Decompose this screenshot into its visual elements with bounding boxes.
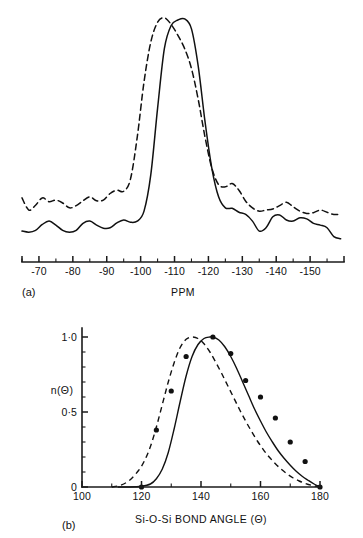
panel-b-y-axis-label: n(Θ) (51, 384, 74, 396)
data-point (243, 378, 248, 383)
panel-a-x-axis (22, 256, 344, 262)
nmr-solid-trace (22, 18, 341, 239)
panel-a-label: (a) (22, 286, 35, 298)
panel-b-y-tick-label: 0 (71, 481, 77, 493)
panel-a-x-tick-labels: -70-80-90-100-110-120-130-140-150 (31, 265, 321, 277)
panel-b-x-tick-label: 160 (252, 490, 270, 502)
panel-a-tick-label: -70 (31, 265, 47, 277)
figure-container: -70-80-90-100-110-120-130-140-150 PPM (a… (0, 0, 363, 538)
panel-a-tick-label: -90 (99, 265, 115, 277)
panel-a-tick-label: -80 (65, 265, 81, 277)
panel-a: -70-80-90-100-110-120-130-140-150 PPM (a… (22, 18, 344, 298)
data-point (154, 427, 159, 432)
panel-b-x-tick-label: 120 (133, 490, 151, 502)
panel-a-tick-label: -130 (232, 265, 253, 277)
panel-b-x-tick-label: 180 (311, 490, 329, 502)
panel-b-x-tick-labels: 100120140160180 (73, 490, 329, 502)
panel-b-x-tick-label: 140 (192, 490, 210, 502)
panel-a-tick-label: -110 (164, 265, 185, 277)
data-point (258, 394, 263, 399)
panel-a-x-axis-label: PPM (171, 286, 195, 298)
panel-a-tick-label: -150 (299, 265, 320, 277)
angle-solid-curve (118, 337, 320, 487)
data-point (228, 351, 233, 356)
panel-b-y-tick-label: 0·5 (62, 406, 78, 418)
data-point (273, 415, 278, 420)
panel-b-x-axis-label: Si-O-Si BOND ANGLE (Θ) (135, 513, 267, 525)
data-point (303, 459, 308, 464)
data-point (184, 354, 189, 359)
panel-a-tick-label: -120 (198, 265, 219, 277)
panel-b-y-tick-labels: 00·51·0 (62, 331, 78, 493)
panel-a-tick-label: -100 (130, 265, 151, 277)
data-point (288, 439, 293, 444)
data-point (169, 388, 174, 393)
panel-b-label: (b) (62, 519, 75, 531)
panel-b-y-tick-label: 1·0 (62, 331, 78, 343)
panel-a-tick-label: -140 (265, 265, 286, 277)
nmr-dashed-trace (22, 18, 341, 215)
panel-b: 100120140160180 00·51·0 Si-O-Si BOND ANG… (51, 328, 329, 531)
figure-svg: -70-80-90-100-110-120-130-140-150 PPM (a… (0, 0, 363, 538)
panel-b-axes (82, 328, 320, 487)
data-point (210, 334, 215, 339)
